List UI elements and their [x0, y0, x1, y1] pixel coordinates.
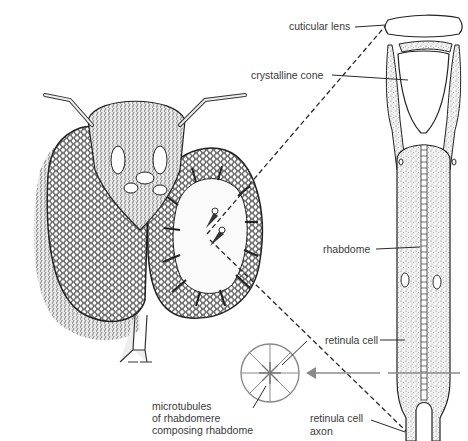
label-retinula-cell-axon-2: axon	[310, 425, 333, 437]
label-retinula-cell: retinula cell	[325, 334, 378, 346]
antenna-base-right	[153, 146, 167, 174]
label-cuticular-lens: cuticular lens	[289, 20, 350, 32]
insect-head-illustration	[34, 95, 263, 362]
ocellus-left	[124, 183, 138, 193]
projection-line-top	[207, 24, 387, 234]
cuticular-lens	[385, 15, 462, 37]
crystalline-cone	[398, 51, 449, 133]
label-rhabdome: rhabdome	[323, 243, 370, 255]
label-microtubules-3: composing rhabdome	[152, 424, 253, 436]
diagram-canvas	[0, 0, 468, 441]
label-retinula-cell-axon-1: retinula cell	[310, 412, 363, 424]
rhabdome-cross-section	[241, 344, 299, 402]
nucleus-left	[401, 273, 409, 287]
label-microtubules-2: of rhabdomere	[152, 412, 220, 424]
ocellus-center	[136, 172, 154, 184]
ocellus-right	[153, 185, 167, 195]
label-microtubules-1: microtubules	[152, 400, 212, 412]
label-crystalline-cone: crystalline cone	[251, 69, 323, 81]
antenna-base-left	[111, 146, 125, 174]
rhabdome	[421, 145, 427, 400]
nucleus-right	[433, 275, 441, 289]
